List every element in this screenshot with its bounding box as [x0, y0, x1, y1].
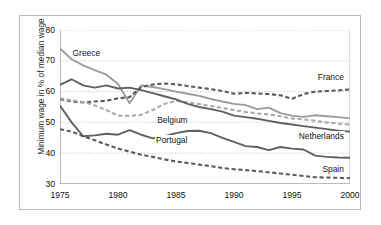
x-tick-label-1975: 1975 — [43, 190, 77, 200]
chart-screenshot: Minimum wage in % of median wage 3040506… — [0, 0, 381, 225]
y-tick-label-50: 50 — [33, 117, 55, 127]
series-label-france: France — [317, 72, 345, 82]
x-tick-label-1985: 1985 — [159, 190, 193, 200]
series-label-netherlands: Netherlands — [298, 131, 345, 141]
x-tick-label-1995: 1995 — [275, 190, 309, 200]
series-label-belgium: Belgium — [156, 115, 188, 125]
chart-svg — [60, 30, 350, 184]
series-label-spain: Spain — [321, 164, 344, 174]
series-label-greece: Greece — [72, 48, 101, 58]
series-line-belgium — [60, 98, 350, 124]
y-tick-label-80: 80 — [33, 25, 55, 35]
y-tick-label-30: 30 — [33, 179, 55, 189]
plot-area — [60, 30, 350, 184]
x-tick-label-1980: 1980 — [101, 190, 135, 200]
chart-frame: Minimum wage in % of median wage 3040506… — [19, 15, 361, 210]
x-tick-label-1990: 1990 — [217, 190, 251, 200]
y-tick-label-60: 60 — [33, 86, 55, 96]
y-tick-label-40: 40 — [33, 148, 55, 158]
series-label-portugal: Portugal — [155, 135, 188, 145]
x-tick-label-2000: 2000 — [333, 190, 367, 200]
y-tick-label-70: 70 — [33, 55, 55, 65]
